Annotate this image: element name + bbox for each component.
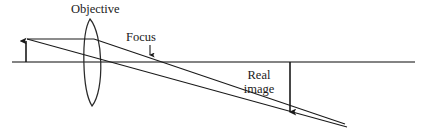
ray-diagram-canvas — [0, 0, 436, 140]
focus-label: Focus — [126, 30, 156, 44]
real-image-label: Realimage — [236, 68, 282, 96]
real-image-label-line1: Real — [248, 68, 271, 82]
ray-parallel-refracted — [94, 39, 345, 124]
objective-label: Objective — [71, 2, 120, 16]
real-image-label-line2: image — [236, 82, 282, 96]
optics-ray-diagram: Objective Focus Realimage — [0, 0, 436, 140]
ray-through-center — [27, 39, 347, 127]
